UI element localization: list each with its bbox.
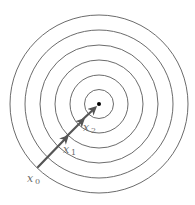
step-arrow-x1-x2: [66, 120, 83, 137]
label-x0-var: x: [27, 172, 34, 185]
contour-diagram: x 0 x 1 x 2: [0, 0, 195, 205]
minimum-point: [97, 102, 101, 106]
svg-text:x: x: [63, 143, 70, 156]
descent-path: [38, 108, 95, 167]
label-x2: x 2: [83, 121, 96, 135]
svg-text:x: x: [83, 121, 90, 134]
label-x0-sub: 0: [35, 177, 40, 186]
label-x2-var: x: [83, 121, 90, 134]
label-x0: x 0: [27, 172, 40, 186]
label-x1-var: x: [63, 143, 70, 156]
label-x2-sub: 2: [91, 126, 96, 135]
label-x1-sub: 1: [71, 148, 76, 157]
svg-text:x: x: [27, 172, 34, 185]
step-arrow-x2-min: [81, 108, 95, 121]
